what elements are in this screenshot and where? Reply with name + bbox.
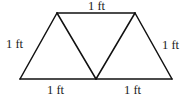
edge-inner-right <box>96 13 135 79</box>
label-left: 1 ft <box>6 37 24 51</box>
edge-left <box>20 13 57 79</box>
label-right: 1 ft <box>162 38 180 52</box>
label-bottom-left: 1 ft <box>47 83 65 97</box>
label-top: 1 ft <box>88 0 106 13</box>
label-bottom-right: 1 ft <box>124 83 142 97</box>
edge-inner-left <box>57 13 96 79</box>
trapezoid-diagram: 1 ft 1 ft 1 ft 1 ft 1 ft <box>0 0 183 104</box>
